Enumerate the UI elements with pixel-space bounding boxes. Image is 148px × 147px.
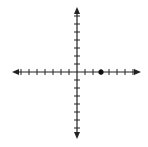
coordinate-plane [0,0,148,147]
axes [12,7,141,139]
arrow-right-icon [134,69,141,75]
plotted-point [98,69,103,74]
arrow-left-icon [12,69,19,75]
arrow-up-icon [74,7,80,14]
arrow-down-icon [74,132,80,139]
plotted-points [98,69,103,74]
